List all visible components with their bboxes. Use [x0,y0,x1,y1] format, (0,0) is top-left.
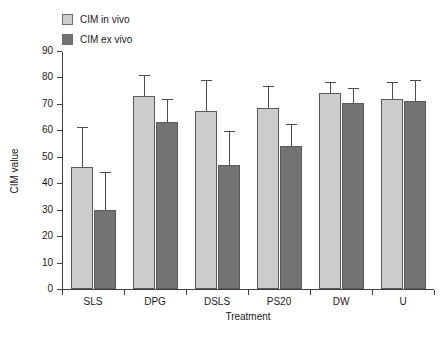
bar [94,210,116,289]
bar-group: DSLS [186,51,248,289]
bar-group: SLS [62,51,124,289]
error-bar-cap [387,82,398,83]
y-axis-tick-label: 60 [42,123,53,136]
x-axis-tick [62,290,63,295]
bar [280,146,302,289]
bar-group: PS20 [248,51,310,289]
y-axis-tick-label: 80 [42,70,53,83]
bar [257,108,279,289]
x-axis-tick-label: DSLS [186,296,248,307]
error-bar [268,87,269,108]
error-bar-cap [162,99,173,100]
x-axis-title: Treatment [62,311,434,322]
y-axis-title: CIM value [8,52,22,290]
x-axis-tick-label: U [372,296,434,307]
y-axis-tick-label: 70 [42,97,53,110]
chart-figure: CIM in vivoCIM ex vivo CIM value Treatme… [0,0,445,338]
y-axis-tick-label: 40 [42,176,53,189]
error-bar-cap [139,75,150,76]
y-axis-tick-label: 30 [42,203,53,216]
error-bar-cap [348,88,359,89]
y-axis-tick-label: 10 [42,256,53,269]
bar [195,111,217,290]
error-bar-cap [286,124,297,125]
y-axis-tick-label: 90 [42,44,53,57]
error-bar-cap [325,82,336,83]
error-bar [415,81,416,101]
error-bar [330,83,331,94]
x-axis-tick-label: DW [310,296,372,307]
bar [218,165,240,289]
bar [342,103,364,289]
x-axis-tick [248,290,249,295]
y-axis-tick-label: 0 [47,282,53,295]
bar-group: U [372,51,434,289]
bar [381,99,403,289]
bar-group: DPG [124,51,186,289]
error-bar-cap [77,127,88,128]
bar [133,96,155,289]
x-axis-tick [124,290,125,295]
error-bar [144,76,145,96]
error-bar [229,132,230,165]
bar [404,101,426,289]
legend-item: CIM ex vivo [62,33,132,46]
error-bar [82,128,83,168]
y-axis-tick-label: 20 [42,229,53,242]
legend-swatch-icon [62,14,73,25]
legend-item-label: CIM in vivo [80,14,129,25]
error-bar [105,173,106,210]
x-axis-tick [186,290,187,295]
chart-legend: CIM in vivoCIM ex vivo [62,13,132,46]
x-axis-tick-label: SLS [62,296,124,307]
plot-area: 0102030405060708090 SLSDPGDSLSPS20DWU [62,52,434,290]
legend-item: CIM in vivo [62,13,132,26]
error-bar [392,83,393,99]
legend-swatch-icon [62,34,73,45]
error-bar [353,89,354,102]
error-bar-cap [263,86,274,87]
error-bar [206,81,207,110]
bar [71,167,93,289]
y-axis-tick-label: 50 [42,150,53,163]
x-axis-tick-label: PS20 [248,296,310,307]
error-bar [167,100,168,122]
error-bar-cap [224,131,235,132]
x-axis-tick [310,290,311,295]
error-bar-cap [410,80,421,81]
error-bar-cap [100,172,111,173]
bar [319,93,341,289]
x-axis-tick-label: DPG [124,296,186,307]
error-bar [291,125,292,146]
legend-item-label: CIM ex vivo [80,34,132,45]
bar [156,122,178,289]
bar-group: DW [310,51,372,289]
x-axis-tick [372,290,373,295]
error-bar-cap [201,80,212,81]
x-axis-tick [434,290,435,295]
